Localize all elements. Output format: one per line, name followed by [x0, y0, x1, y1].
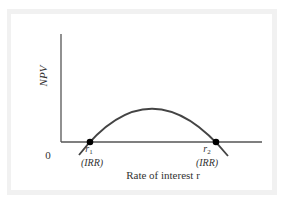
npv-diagram: NPV 0 r1 (IRR) r2 (IRR) Rate of interest… — [0, 0, 288, 203]
r2-irr-label: (IRR) — [196, 157, 219, 169]
irr-point-r2 — [213, 139, 220, 146]
y-axis-label: NPV — [37, 64, 49, 87]
r1-irr-label: (IRR) — [81, 157, 104, 169]
r2-label: r2 — [203, 143, 211, 156]
x-axis-label: Rate of interest r — [126, 169, 200, 181]
origin-label: 0 — [45, 149, 51, 161]
